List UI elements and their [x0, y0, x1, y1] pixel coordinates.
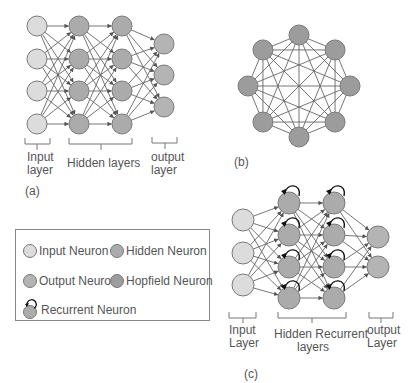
input-layer-label-c: Input Layer: [229, 324, 259, 350]
hidden1-neuron: [69, 49, 89, 69]
hidden-neuron-icon: [110, 244, 124, 258]
hopfield-neuron-icon: [110, 274, 124, 288]
input-neuron: [27, 16, 47, 36]
output-layer-label-a: output layer: [151, 151, 184, 177]
input-neuron: [232, 209, 254, 231]
input-neuron: [232, 242, 254, 264]
output-neuron: [154, 34, 174, 54]
hidden-layers-label-c: Hidden Recurrent layers: [274, 328, 352, 354]
hidden1-neuron: [278, 250, 300, 278]
input-neuron: [232, 274, 254, 296]
hidden2-neuron: [112, 81, 132, 101]
output-layer-bracket-c: [369, 312, 393, 323]
legend-item-input-neuron: Input Neuron: [23, 244, 108, 258]
hopfield-neuron: [289, 127, 309, 147]
output-layer-bracket-a: [152, 137, 177, 149]
output-neuron-icon: [23, 274, 37, 288]
hidden2-neuron: [323, 250, 345, 278]
input-layer-bracket-c: [229, 312, 256, 323]
panel-label-b: (b): [234, 156, 249, 169]
hidden2-neuron: [112, 114, 132, 134]
hopfield-neuron: [253, 40, 273, 60]
panel-label-c: (c): [244, 368, 258, 381]
hidden1-neuron: [278, 218, 300, 246]
hopfield-neuron: [238, 76, 258, 96]
hopfield-neuron: [253, 112, 273, 132]
output-neuron: [367, 226, 389, 248]
hidden2-neuron: [323, 218, 345, 246]
hopfield-neuron: [340, 76, 360, 96]
neural-network-diagram: [0, 0, 411, 383]
recurrent-edges: [248, 203, 371, 298]
output-neuron: [154, 65, 174, 85]
hopfield-network-panel: [238, 25, 360, 147]
input-neuron: [27, 49, 47, 69]
hidden2-neuron: [112, 16, 132, 36]
hidden-layers-label-a: Hidden layers: [67, 157, 140, 170]
hidden1-neuron: [278, 186, 300, 214]
hidden-layers-bracket-a: [69, 138, 132, 150]
input-neuron-icon: [23, 244, 37, 258]
hidden2-neuron: [112, 49, 132, 69]
output-layer-label-c: output Layer: [367, 324, 400, 350]
hopfield-neuron: [289, 25, 309, 45]
hidden2-neuron: [323, 281, 345, 309]
legend-item-hidden-neuron: Hidden Neuron: [110, 244, 207, 258]
output-neuron: [154, 97, 174, 117]
input-layer-label-a: Input layer: [27, 151, 54, 177]
panel-label-a: (a): [25, 185, 40, 198]
legend: Input Neuron Hidden Neuron Output Neuron…: [15, 229, 210, 321]
recurrent-neuron-icon: [23, 302, 39, 318]
recurrent-network-panel: [232, 186, 389, 309]
output-neuron: [367, 256, 389, 278]
input-neuron: [27, 114, 47, 134]
hidden1-neuron: [69, 16, 89, 36]
input-neuron: [27, 81, 47, 101]
hopfield-neuron: [325, 40, 345, 60]
legend-item-output-neuron: Output Neuron: [23, 274, 118, 288]
feedforward-network-panel: [27, 16, 174, 134]
hidden2-neuron: [323, 186, 345, 214]
hidden1-neuron: [69, 114, 89, 134]
hidden-layers-bracket-c: [278, 312, 346, 323]
legend-item-recurrent-neuron: Recurrent Neuron: [23, 302, 136, 318]
legend-item-hopfield-neuron: Hopfield Neuron: [110, 274, 213, 288]
hopfield-neuron: [325, 112, 345, 132]
feedforward-edges: [41, 26, 159, 124]
input-layer-bracket-a: [25, 138, 50, 150]
hidden1-neuron: [69, 81, 89, 101]
